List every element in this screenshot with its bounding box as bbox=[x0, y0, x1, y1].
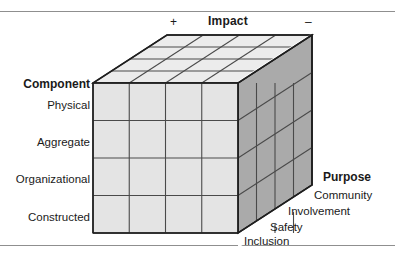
impact-negative-sign: – bbox=[305, 16, 312, 28]
purpose-axis-label: Purpose bbox=[323, 171, 371, 183]
impact-axis-label: Impact bbox=[208, 15, 248, 27]
component-axis-label: Component bbox=[23, 78, 90, 90]
purpose-category-inclusion: Inclusion bbox=[244, 236, 289, 248]
component-category-aggregate: Aggregate bbox=[37, 137, 90, 149]
component-category-physical: Physical bbox=[47, 100, 90, 112]
figure-container: + Impact – Component Physical Aggregate … bbox=[0, 0, 395, 254]
impact-positive-sign: + bbox=[170, 16, 177, 28]
purpose-category-involvement: Involvement bbox=[288, 206, 350, 218]
component-category-constructed: Constructed bbox=[28, 212, 90, 224]
cube-front-face bbox=[93, 83, 238, 233]
purpose-category-safety: Safety bbox=[270, 222, 303, 234]
purpose-category-community: Community bbox=[314, 190, 372, 202]
component-category-organizational: Organizational bbox=[16, 174, 90, 186]
